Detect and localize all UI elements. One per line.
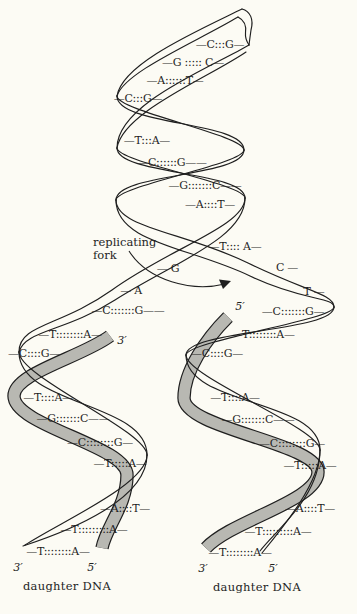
base-pair: —C::::::G—— bbox=[137, 156, 207, 169]
parent-base-pairs: —C:::G— —G ::::: C— —A::::::T— —C:::G— —… bbox=[114, 38, 262, 253]
base-pair: —T::::::::A— bbox=[231, 328, 295, 341]
replicating-fork-label-line2: fork bbox=[93, 248, 118, 262]
three-prime-label-left: 3′ bbox=[13, 561, 23, 574]
three-prime-label-fork: 3′ bbox=[117, 334, 127, 347]
replicating-fork-label-line1: replicating bbox=[93, 235, 157, 249]
base-pair: —T:::: A— bbox=[209, 240, 262, 253]
base-pair: —T:::::A— bbox=[283, 459, 336, 472]
base-pair: —T::::::::A— bbox=[208, 546, 272, 559]
unpaired-base: — G bbox=[157, 262, 180, 275]
base-pair: —T:::::::::A— bbox=[61, 523, 128, 536]
base-pair: —C::::::::G— bbox=[259, 437, 325, 450]
base-pair: —A::::::T— bbox=[146, 74, 203, 87]
base-pair: —A::::T— bbox=[100, 502, 150, 515]
base-pair: —C:::::::G—— bbox=[91, 304, 164, 317]
base-pair: —T:::A— bbox=[124, 134, 171, 147]
base-pair: —T:::::A— bbox=[93, 457, 146, 470]
base-pair: —C::::::::G— bbox=[67, 436, 133, 449]
right-daughter-base-pairs: —C::::G— —T::::A— —G:::::::C—— —C:::::::… bbox=[191, 347, 337, 559]
base-pair: —C::::G— bbox=[8, 347, 60, 360]
base-pair: —A::::T— bbox=[285, 502, 335, 515]
base-pair: —C:::G— bbox=[196, 38, 245, 51]
base-pair: —G ::::: C— bbox=[162, 56, 224, 69]
unpaired-base: C — bbox=[276, 261, 298, 274]
figure-canvas: —C:::G— —G ::::: C— —A::::::T— —C:::G— —… bbox=[0, 0, 357, 614]
base-pair: —T::::A— bbox=[23, 391, 73, 404]
five-prime-label-right: 5′ bbox=[268, 562, 278, 575]
dna-replication-figure: —C:::G— —G ::::: C— —A::::::T— —C:::G— —… bbox=[0, 0, 357, 614]
base-pair: —C:::G— bbox=[114, 92, 163, 105]
base-pair: —G:::::::C—— bbox=[168, 179, 241, 192]
branch-base-pairs: —C:::::::G—— —T::::::::A— —C:::::::G— —T… bbox=[38, 304, 324, 341]
daughter-dna-label-left: daughter DNA bbox=[23, 579, 112, 593]
five-prime-label-fork: 5′ bbox=[235, 300, 245, 313]
base-pair: —T::::::::A— bbox=[38, 328, 102, 341]
five-prime-label-left: 5′ bbox=[87, 561, 97, 574]
unpaired-base: — A bbox=[120, 284, 143, 297]
unpaired-base: T — bbox=[303, 285, 324, 298]
base-pair: —A::::T— bbox=[185, 198, 235, 211]
base-pair: —T:::::::::A— bbox=[245, 525, 312, 538]
base-pair: —C::::G— bbox=[191, 347, 243, 360]
base-pair: —C:::::::G— bbox=[262, 305, 325, 318]
base-pair: —T::::A— bbox=[210, 391, 260, 404]
daughter-dna-label-right: daughter DNA bbox=[213, 580, 302, 594]
base-pair: —G:::::::C—— bbox=[36, 412, 109, 425]
three-prime-label-right: 3′ bbox=[198, 562, 208, 575]
base-pair: —G:::::::C—— bbox=[221, 413, 294, 426]
base-pair: —T::::::::A— bbox=[26, 545, 90, 558]
